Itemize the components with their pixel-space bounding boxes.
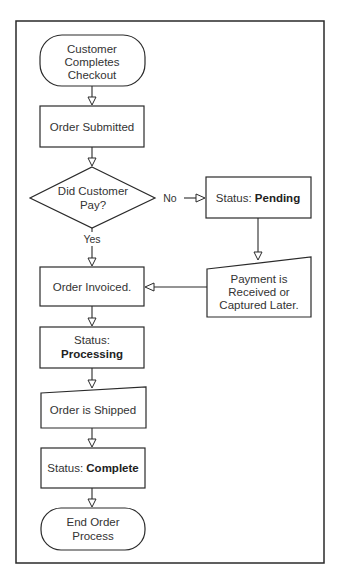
node-order-invoiced: Order Invoiced.: [40, 267, 144, 306]
arrowhead-icon: [88, 380, 96, 388]
complete-label: Status: Complete: [47, 462, 138, 474]
node-status-complete: Status: Complete: [41, 448, 145, 488]
shipped-label: Order is Shipped: [50, 404, 136, 416]
end-line-1: End Order: [66, 516, 119, 528]
arrowhead-icon: [88, 258, 96, 266]
arrowhead-icon: [254, 252, 262, 260]
node-status-pending: Status: Pending: [206, 177, 311, 218]
arrowhead-icon: [88, 439, 96, 447]
decision-line-2: Pay?: [80, 199, 106, 211]
arrowhead-icon: [88, 97, 96, 105]
decision-line-1: Did Customer: [58, 185, 128, 197]
invoiced-label: Order Invoiced.: [53, 281, 132, 293]
processing-prefix: Status:: [74, 334, 110, 346]
arrowhead-icon: [145, 283, 154, 291]
node-status-processing: Status: Processing: [40, 327, 144, 368]
start-line-3: Checkout: [68, 69, 117, 81]
edge-label-yes: Yes: [83, 233, 100, 245]
pending-prefix: Status:: [216, 192, 255, 204]
start-line-2: Completes: [65, 56, 120, 68]
pending-label: Status: Pending: [216, 192, 300, 204]
complete-prefix: Status:: [47, 462, 86, 474]
submitted-label: Order Submitted: [50, 121, 134, 133]
node-end-terminal: End Order Process: [41, 508, 145, 550]
payment-line-1: Payment is: [231, 273, 288, 285]
edge-label-no: No: [163, 192, 177, 204]
pending-status: Pending: [255, 192, 300, 204]
order-flowchart: Customer Completes Checkout Order Submit…: [0, 0, 339, 583]
payment-line-3: Captured Later.: [219, 299, 298, 311]
start-line-1: Customer: [67, 43, 117, 55]
processing-status: Processing: [61, 348, 123, 360]
arrowhead-icon: [196, 194, 205, 202]
node-order-submitted: Order Submitted: [40, 106, 144, 147]
node-start-terminal: Customer Completes Checkout: [40, 35, 145, 86]
end-line-2: Process: [72, 530, 114, 542]
arrowhead-icon: [88, 499, 96, 507]
payment-line-2: Received or: [228, 286, 290, 298]
node-payment-later: Payment is Received or Captured Later.: [207, 257, 311, 317]
arrowhead-icon: [88, 158, 96, 166]
arrowhead-icon: [88, 318, 96, 326]
complete-status: Complete: [86, 462, 138, 474]
node-decision: Did Customer Pay?: [30, 167, 155, 228]
node-order-shipped: Order is Shipped: [41, 387, 146, 428]
